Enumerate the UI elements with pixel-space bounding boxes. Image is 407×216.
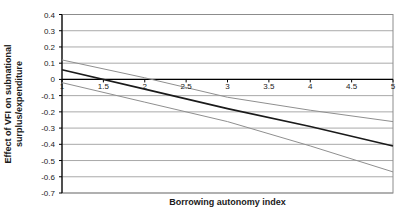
x-tick-label: 3: [225, 82, 229, 91]
plot-area: [0, 0, 407, 216]
x-tick-label: 4: [308, 82, 312, 91]
x-tick-label: 3.5: [263, 82, 274, 91]
y-tick-label: -0.6: [25, 172, 55, 181]
y-tick-label: -0.3: [25, 124, 55, 133]
y-axis-title-line2: surplus/expenditure: [14, 9, 25, 199]
x-tick-label: 2.5: [181, 82, 192, 91]
y-tick-label: 0.4: [25, 10, 55, 19]
x-tick-label: 1.5: [98, 82, 109, 91]
y-tick-label: 0: [25, 75, 55, 84]
y-axis-title-line1: Effect of VFI on subnational: [3, 9, 14, 199]
x-tick-label: 5: [391, 82, 395, 91]
y-tick-label: -0.7: [25, 189, 55, 198]
y-tick-label: -0.5: [25, 156, 55, 165]
y-tick-label: -0.4: [25, 140, 55, 149]
y-tick-label: -0.2: [25, 107, 55, 116]
y-tick-label: 0.3: [25, 26, 55, 35]
y-tick-label: -0.1: [25, 91, 55, 100]
x-tick-label: 4.5: [346, 82, 357, 91]
chart-figure: Effect of VFI on subnational surplus/exp…: [0, 0, 407, 216]
y-axis-title-text: Effect of VFI on subnational surplus/exp…: [3, 9, 25, 199]
plot-border: [62, 15, 393, 194]
x-tick-label: 1: [60, 82, 64, 91]
x-axis-title: Borrowing autonomy index: [62, 197, 393, 207]
y-tick-label: 0.1: [25, 59, 55, 68]
y-axis-title: Effect of VFI on subnational surplus/exp…: [1, 15, 27, 193]
y-tick-label: 0.2: [25, 42, 55, 51]
x-tick-label: 2: [143, 82, 147, 91]
